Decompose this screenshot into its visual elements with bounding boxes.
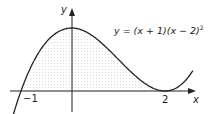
x-axis-label: x bbox=[193, 94, 199, 105]
x-tick-2: 2 bbox=[162, 94, 168, 105]
cubic-graph: y x −1 2 y = (x + 1)(x − 2)2 bbox=[0, 0, 209, 114]
x-tick-neg1: −1 bbox=[23, 93, 38, 104]
equation-label: y = (x + 1)(x − 2)2 bbox=[114, 24, 204, 36]
y-axis-arrow-icon bbox=[69, 8, 75, 16]
shaded-region bbox=[21, 28, 165, 91]
y-axis-label: y bbox=[61, 4, 67, 15]
